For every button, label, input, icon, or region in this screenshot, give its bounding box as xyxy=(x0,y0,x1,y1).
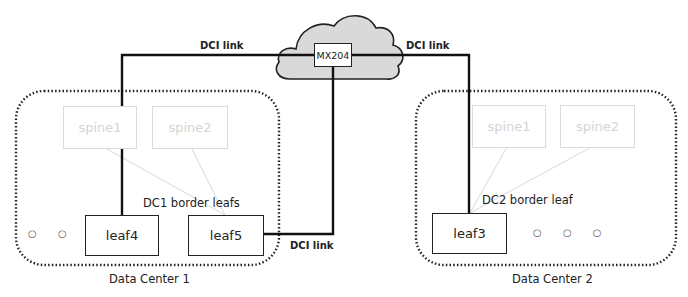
leaf4[interactable]: leaf4 xyxy=(85,215,159,256)
dc1-spine2: spine2 xyxy=(152,106,228,149)
dci-link-label: DCI link xyxy=(406,40,449,51)
dc2-spine2: spine2 xyxy=(560,105,635,148)
dc1-name: Data Center 1 xyxy=(109,272,190,286)
dc2-name: Data Center 2 xyxy=(512,272,593,286)
dc1-group-label: DC1 border leafs xyxy=(143,196,240,210)
leaf3[interactable]: leaf3 xyxy=(432,213,507,254)
dc1-spine1: spine1 xyxy=(63,106,137,149)
router-mx204[interactable]: MX204 xyxy=(314,43,352,67)
dc2-spine1: spine1 xyxy=(472,105,546,148)
dci-link-leaf5 xyxy=(263,66,333,234)
leaf5[interactable]: leaf5 xyxy=(188,215,264,256)
dc2-group-label: DC2 border leaf xyxy=(482,193,573,207)
dci-link-label: DCI link xyxy=(290,240,333,251)
more-nodes-ellipsis: ○ ○ ○ xyxy=(533,227,611,238)
dci-link-label: DCI link xyxy=(200,40,243,51)
